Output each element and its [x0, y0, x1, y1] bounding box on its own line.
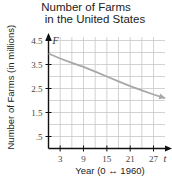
- y-tick-label: 2.5: [31, 84, 43, 94]
- plot-area: Ft.51.52.53.54.539152127: [0, 0, 172, 187]
- x-tick-label: 3: [58, 154, 63, 164]
- x-tick-label: 9: [81, 154, 86, 164]
- x-axis-arrow-icon: [165, 146, 172, 152]
- y-variable-label: F: [52, 35, 60, 46]
- y-tick-label: 3.5: [31, 60, 43, 70]
- x-tick-label: 21: [126, 154, 135, 164]
- y-axis-arrow-icon: [46, 33, 52, 40]
- y-tick-label: .5: [36, 132, 43, 142]
- x-variable-label: t: [164, 153, 167, 164]
- y-tick-label: 4.5: [31, 36, 43, 46]
- x-tick-label: 15: [102, 154, 112, 164]
- y-tick-label: 1.5: [31, 108, 43, 118]
- x-tick-label: 27: [149, 154, 159, 164]
